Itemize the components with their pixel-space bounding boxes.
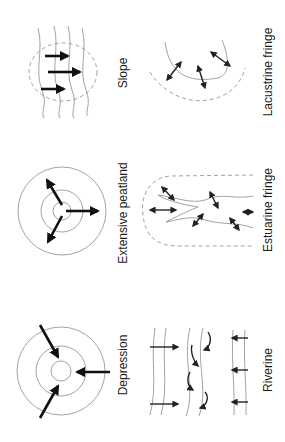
label-extensive-peatland: Extensive peatland bbox=[116, 162, 130, 263]
label-depression: Depression bbox=[116, 335, 130, 396]
flow-arrow-icon bbox=[204, 332, 210, 350]
exchange-arrow-icon bbox=[210, 192, 218, 208]
flow-arrow-icon bbox=[200, 392, 207, 408]
label-lacustrine-fringe: Lacustrine fringe bbox=[261, 27, 275, 116]
exchange-arrow-icon bbox=[198, 66, 205, 88]
estuarine-fringe-panel bbox=[142, 175, 253, 246]
flow-arrow-icon bbox=[191, 345, 198, 366]
flow-arrow-icon bbox=[40, 325, 58, 357]
depression-panel bbox=[17, 325, 110, 418]
extensive-peatland-panel bbox=[18, 167, 106, 255]
wetland-diagram: Slope Extensive peatland Depression Lacu… bbox=[0, 0, 285, 442]
exchange-arrow-icon bbox=[167, 62, 181, 80]
label-riverine: Riverine bbox=[261, 348, 275, 392]
slope-panel bbox=[29, 26, 97, 118]
label-estuarine-fringe: Estuarine fringe bbox=[261, 168, 275, 252]
flow-arrow-icon bbox=[188, 372, 193, 390]
riverine-panel bbox=[150, 328, 248, 416]
flow-arrow-icon bbox=[47, 180, 62, 205]
label-slope: Slope bbox=[116, 57, 130, 88]
flow-arrow-icon bbox=[48, 216, 62, 242]
exchange-arrow-icon bbox=[193, 214, 203, 226]
lacustrine-fringe-panel bbox=[150, 40, 245, 101]
